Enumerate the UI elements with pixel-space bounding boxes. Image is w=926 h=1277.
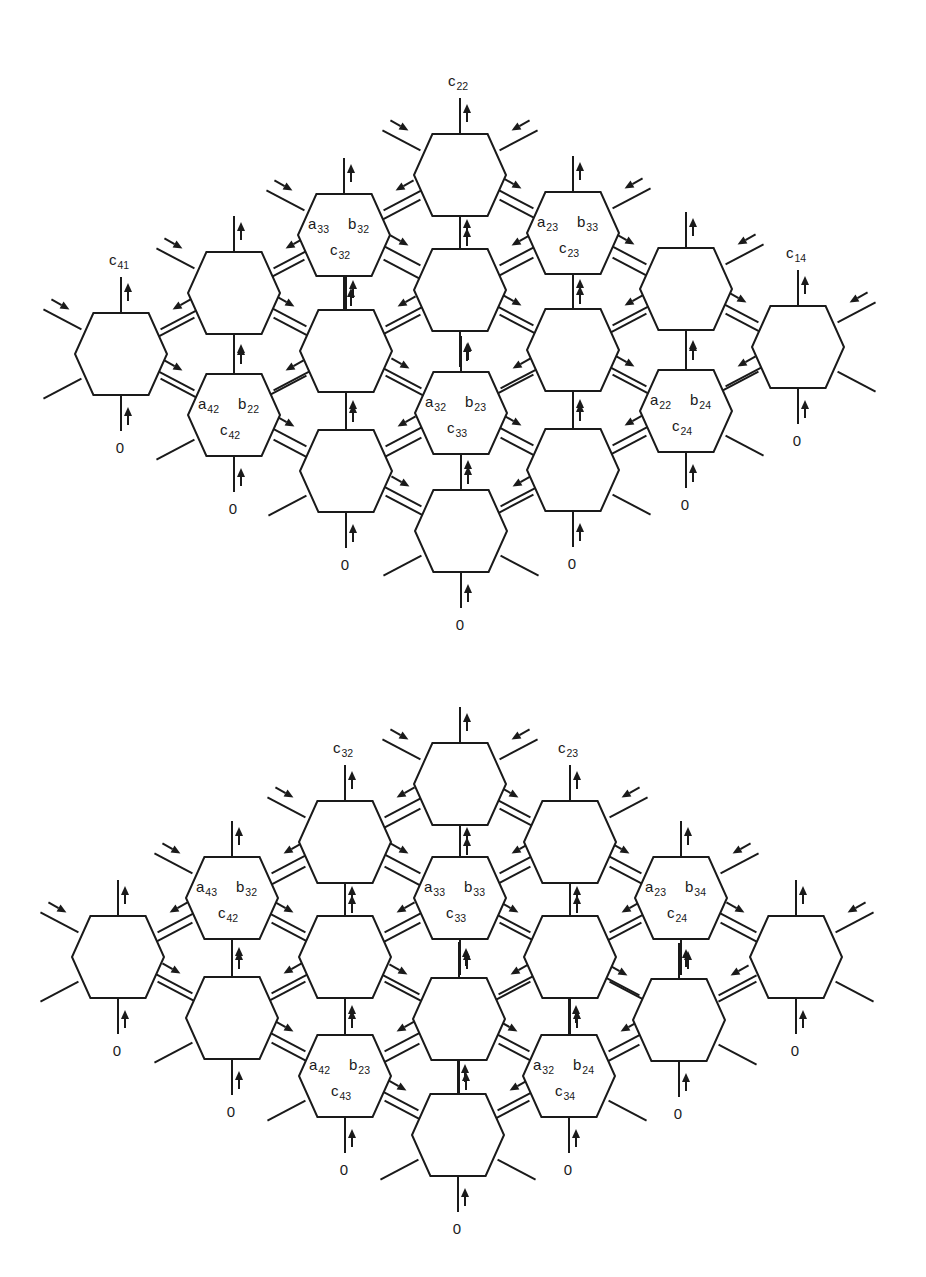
up-arrow-icon: [237, 344, 245, 362]
zero-input-label: 0: [568, 555, 576, 572]
up-arrow-icon: [684, 827, 692, 845]
down-left-arrow-icon: [398, 416, 416, 426]
processing-cell: [299, 801, 391, 883]
down-left-arrow-icon: [173, 299, 191, 309]
diagonal-connector: [380, 1160, 418, 1180]
up-arrow-icon: [348, 1005, 356, 1023]
processing-cell: [299, 1035, 391, 1117]
down-right-arrow-icon: [275, 787, 293, 797]
zero-input-label: 0: [674, 1105, 682, 1122]
diagonal-connector: [721, 923, 759, 943]
processing-cell: [188, 252, 280, 334]
diagonal-connector: [721, 853, 759, 873]
diagonal-connector: [838, 302, 876, 322]
diagonal-connector: [267, 867, 305, 887]
zero-input-label: 0: [453, 1220, 461, 1237]
diagonal-connector: [382, 739, 420, 759]
down-left-arrow-icon: [284, 963, 302, 973]
processing-cell: [188, 374, 280, 456]
diagonal-connector: [384, 190, 422, 210]
processing-cell: [72, 916, 164, 998]
down-right-arrow-icon: [275, 1021, 293, 1031]
diagonal-connector: [274, 318, 312, 338]
processing-cell: [300, 310, 392, 392]
diagonal-connector: [385, 912, 423, 932]
zero-input-label: 0: [456, 616, 464, 633]
up-arrow-icon: [349, 400, 357, 418]
diagonal-connector: [719, 1045, 757, 1065]
zero-input-label: 0: [681, 496, 689, 513]
diagonal-connector: [382, 200, 420, 220]
diagonal-connector: [267, 1101, 305, 1121]
processing-cell: [635, 857, 727, 939]
down-right-arrow-icon: [48, 902, 66, 912]
diagonal-connector: [386, 426, 424, 446]
processing-cell: [414, 857, 506, 939]
diagonal-connector: [43, 309, 81, 329]
down-right-arrow-icon: [390, 843, 408, 853]
down-left-arrow-icon: [398, 296, 416, 306]
diagonal-connector: [501, 556, 539, 576]
up-arrow-icon: [463, 827, 471, 845]
up-arrow-icon: [348, 1129, 356, 1147]
down-left-arrow-icon: [170, 902, 188, 912]
processing-cell: [524, 801, 616, 883]
up-arrow-icon: [347, 164, 355, 182]
down-left-arrow-icon: [738, 356, 756, 366]
down-right-arrow-icon: [388, 1080, 406, 1090]
down-right-arrow-icon: [51, 299, 69, 309]
output-c-label: c23: [558, 739, 578, 759]
down-right-arrow-icon: [616, 234, 634, 244]
processing-cell: [300, 430, 392, 512]
diagonal-connector: [609, 1101, 647, 1121]
diagonal-connector: [382, 853, 420, 873]
diagonal-connector: [495, 375, 533, 395]
diagonal-connector: [381, 1044, 419, 1064]
processing-cell: [186, 977, 278, 1059]
down-right-arrow-icon: [390, 729, 408, 739]
diagonal-connector: [613, 495, 651, 515]
down-right-arrow-icon: [390, 120, 408, 130]
zero-input-label: 0: [227, 1103, 235, 1120]
diagonal-connector: [382, 923, 420, 943]
diagonal-connector: [720, 302, 758, 322]
diagonal-connector: [156, 440, 194, 460]
diagonal-connector: [500, 739, 538, 759]
up-arrow-icon: [235, 947, 243, 965]
diagonal-connector: [726, 244, 764, 264]
up-arrow-icon: [799, 1010, 807, 1028]
diagonal-connector: [266, 190, 304, 210]
diagonal-connector: [385, 797, 423, 817]
diagonal-connector: [836, 982, 874, 1002]
down-right-arrow-icon: [503, 178, 521, 188]
processing-cell: [414, 249, 506, 331]
down-right-arrow-icon: [274, 180, 292, 190]
down-left-arrow-icon: [625, 295, 643, 305]
diagonal-connector: [610, 797, 648, 817]
diagonal-connector: [272, 853, 310, 873]
down-left-arrow-icon: [512, 729, 530, 739]
processing-cell: [298, 194, 390, 276]
up-arrow-icon: [349, 524, 357, 542]
output-c-label: c22: [448, 72, 468, 92]
down-right-arrow-icon: [162, 963, 180, 973]
processing-cell: [413, 978, 505, 1060]
systolic-array-diagram: c410a42b22c420a33b32c320c22a32b23c330a23…: [0, 0, 926, 1277]
up-arrow-icon: [576, 399, 584, 417]
up-arrow-icon: [799, 886, 807, 904]
processing-cell: [412, 1094, 504, 1176]
zero-input-label: 0: [791, 1042, 799, 1059]
up-arrow-icon: [121, 886, 129, 904]
diagonal-connector: [726, 366, 764, 386]
up-arrow-icon: [801, 276, 809, 294]
diagonal-connector: [501, 486, 539, 506]
diagonal-connector: [385, 1031, 423, 1051]
zero-input-label: 0: [340, 1161, 348, 1178]
diagonal-connector: [267, 797, 305, 817]
up-arrow-icon: [237, 468, 245, 486]
diagonal-connector: [383, 556, 421, 576]
down-right-arrow-icon: [164, 238, 182, 248]
processing-cell: [523, 1035, 615, 1117]
down-left-arrow-icon: [733, 843, 751, 853]
down-left-arrow-icon: [397, 902, 415, 912]
